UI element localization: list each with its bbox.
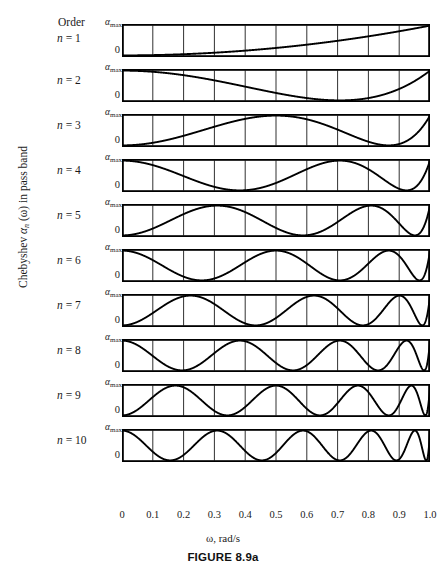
x-tick-4: 0.4 xyxy=(239,509,252,520)
y-max-tick-n2: αmax xyxy=(100,62,122,74)
figure-caption: FIGURE 8.9a xyxy=(0,551,446,563)
series-label-n9: n = 9 xyxy=(57,389,115,401)
x-tick-7: 0.7 xyxy=(331,509,344,520)
y-zero-tick-n7: 0 xyxy=(104,314,120,325)
y-max-tick-n1: αmax xyxy=(100,17,122,29)
plot-panel-n1 xyxy=(122,24,430,57)
x-tick-8: 0.8 xyxy=(362,509,375,520)
x-tick-1: 0.1 xyxy=(146,509,159,520)
plot-panel-n5 xyxy=(122,204,430,237)
series-label-n8: n = 8 xyxy=(57,344,115,356)
y-zero-tick-n10: 0 xyxy=(104,449,120,460)
series-label-n6: n = 6 xyxy=(57,254,115,266)
y-max-tick-n8: αmax xyxy=(100,332,122,344)
chart-row-n2: n = 2αmax0 xyxy=(0,63,446,108)
plot-panel-n4 xyxy=(122,159,430,192)
plot-panel-n2 xyxy=(122,69,430,102)
chart-row-n1: Ordern = 1αmax0 xyxy=(0,18,446,63)
plot-panel-n10 xyxy=(122,429,430,462)
y-max-tick-n4: αmax xyxy=(100,152,122,164)
chart-row-n10: n = 10αmax0 xyxy=(0,423,446,468)
plot-panel-n8 xyxy=(122,339,430,372)
series-label-n1: n = 1 xyxy=(57,32,115,44)
chart-row-n6: n = 6αmax0 xyxy=(0,243,446,288)
series-label-n3: n = 3 xyxy=(57,119,115,131)
series-label-n10: n = 10 xyxy=(57,434,115,446)
y-max-tick-n5: αmax xyxy=(100,197,122,209)
series-label-n4: n = 4 xyxy=(57,164,115,176)
y-zero-tick-n3: 0 xyxy=(104,134,120,145)
x-tick-3: 0.3 xyxy=(208,509,221,520)
x-axis: 00.10.20.30.40.50.60.70.80.91.0 xyxy=(122,509,430,525)
x-axis-label: ω, rad/s xyxy=(0,532,446,544)
x-tick-10: 1.0 xyxy=(423,509,436,520)
chart-row-n7: n = 7αmax0 xyxy=(0,288,446,333)
series-label-n2: n = 2 xyxy=(57,74,115,86)
order-label: Order xyxy=(58,16,85,28)
y-zero-tick-n8: 0 xyxy=(104,359,120,370)
y-zero-tick-n9: 0 xyxy=(104,404,120,415)
chart-stack: Ordern = 1αmax0n = 2αmax0n = 3αmax0n = 4… xyxy=(0,0,446,520)
plot-panel-n9 xyxy=(122,384,430,417)
series-label-n5: n = 5 xyxy=(57,209,115,221)
chart-row-n8: n = 8αmax0 xyxy=(0,333,446,378)
chart-row-n3: n = 3αmax0 xyxy=(0,108,446,153)
x-tick-9: 0.9 xyxy=(393,509,406,520)
y-max-tick-n7: αmax xyxy=(100,287,122,299)
y-max-tick-n10: αmax xyxy=(100,422,122,434)
plot-panel-n3 xyxy=(122,114,430,147)
x-tick-0: 0 xyxy=(119,509,124,520)
x-tick-5: 0.5 xyxy=(269,509,282,520)
y-max-tick-n6: αmax xyxy=(100,242,122,254)
y-max-tick-n3: αmax xyxy=(100,107,122,119)
y-zero-tick-n6: 0 xyxy=(104,269,120,280)
chart-row-n4: n = 4αmax0 xyxy=(0,153,446,198)
plot-panel-n6 xyxy=(122,249,430,282)
chart-row-n5: n = 5αmax0 xyxy=(0,198,446,243)
x-tick-2: 0.2 xyxy=(177,509,190,520)
plot-panel-n7 xyxy=(122,294,430,327)
y-zero-tick-n1: 0 xyxy=(104,44,120,55)
y-zero-tick-n4: 0 xyxy=(104,179,120,190)
series-label-n7: n = 7 xyxy=(57,299,115,311)
y-zero-tick-n5: 0 xyxy=(104,224,120,235)
x-tick-6: 0.6 xyxy=(300,509,313,520)
chart-row-n9: n = 9αmax0 xyxy=(0,378,446,423)
y-max-tick-n9: αmax xyxy=(100,377,122,389)
y-zero-tick-n2: 0 xyxy=(104,89,120,100)
